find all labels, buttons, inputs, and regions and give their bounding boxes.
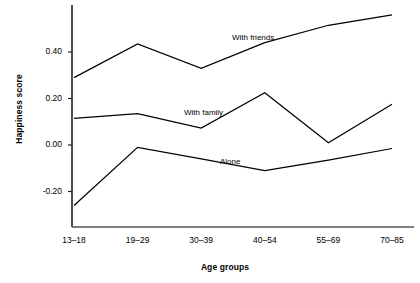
x-tick-label: 70–85 [362, 235, 420, 245]
x-tick-label: 13–18 [44, 235, 104, 245]
line-chart: Happiness score Age groups 0.400.200.00-… [0, 0, 420, 283]
x-tick-label: 40–54 [235, 235, 295, 245]
series-lines [74, 15, 392, 206]
y-tick-label: 0.40 [22, 46, 62, 56]
y-tick-label: 0.00 [22, 139, 62, 149]
y-tick-label: 0.20 [22, 93, 62, 103]
series-line [74, 15, 392, 78]
series-annotation: With friends [232, 33, 274, 42]
x-tick-label: 19–29 [108, 235, 168, 245]
x-axis-title: Age groups [170, 262, 280, 272]
series-annotation: Alone [220, 157, 240, 166]
x-tick-label: 55–69 [298, 235, 358, 245]
y-tick-label: -0.20 [22, 186, 62, 196]
x-tick-label: 30–39 [171, 235, 231, 245]
series-annotation: With family [184, 108, 223, 117]
series-line [74, 93, 392, 143]
